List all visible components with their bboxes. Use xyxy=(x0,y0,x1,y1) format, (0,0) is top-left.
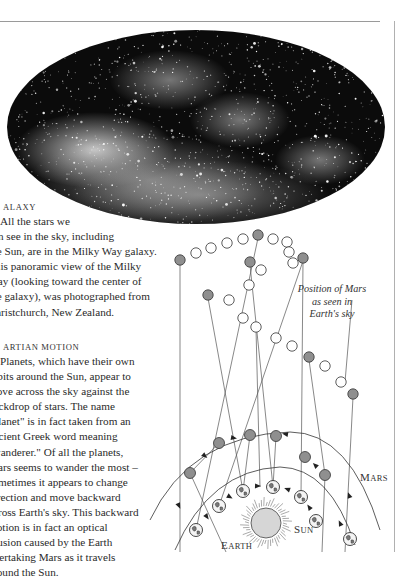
direction-arrow-icon xyxy=(226,493,234,500)
caption-line: Position of Mars xyxy=(287,283,377,296)
mars-position-marker xyxy=(282,237,292,247)
martian-text-line: overtaking Mars as it travels xyxy=(0,550,139,565)
caption-line: Earth's sky xyxy=(287,308,377,321)
earth-icon xyxy=(237,485,250,498)
direction-arrow-icon xyxy=(203,513,211,521)
earth-icon xyxy=(295,491,308,504)
mars-position-marker-filled xyxy=(175,255,185,265)
martian-text-line: around the Sun. xyxy=(0,565,139,580)
mars-label: MARS xyxy=(360,471,388,483)
sun-label: SUN xyxy=(294,523,314,535)
mars-position-marker-filled xyxy=(203,290,213,300)
mars-position-marker-filled xyxy=(348,389,358,399)
mars-position-marker xyxy=(191,248,201,258)
mars-icon xyxy=(245,430,256,441)
mars-icon xyxy=(271,431,282,442)
mars-position-marker-filled xyxy=(298,253,308,263)
mars-position-marker xyxy=(256,265,266,275)
mars-position-marker xyxy=(287,341,297,351)
direction-arrow-icon xyxy=(175,502,182,510)
direction-arrow-icon xyxy=(346,491,353,498)
mars-position-marker-filled xyxy=(245,257,255,267)
earth-label: EARTH xyxy=(221,539,252,551)
mars-icon xyxy=(185,468,196,479)
mars-position-marker xyxy=(268,234,278,244)
mars-position-marker xyxy=(251,322,261,332)
direction-arrow-icon xyxy=(311,461,319,469)
mars-icon xyxy=(320,470,331,481)
mars-position-caption: Position of Marsas seen inEarth's sky xyxy=(287,283,377,321)
mars-position-marker xyxy=(206,243,216,253)
mars-icon xyxy=(300,452,311,463)
mars-position-marker xyxy=(288,258,298,268)
caption-line: as seen in xyxy=(287,296,377,309)
earth-icon xyxy=(190,524,203,537)
direction-arrow-icon xyxy=(201,452,209,460)
direction-arrow-icon xyxy=(336,519,343,527)
mars-position-marker xyxy=(224,295,234,305)
direction-arrow-icon xyxy=(305,503,313,511)
mars-position-marker xyxy=(284,247,294,257)
mars-position-marker-filled xyxy=(253,230,263,240)
direction-arrow-icon xyxy=(283,486,290,493)
earth-icon xyxy=(213,500,226,513)
mars-position-marker xyxy=(222,238,232,248)
mars-position-marker xyxy=(336,377,346,387)
mars-position-marker xyxy=(271,333,281,343)
mars-position-marker-filled xyxy=(304,352,314,362)
mars-position-marker xyxy=(320,361,330,371)
earth-icon xyxy=(267,481,280,494)
mars-icon xyxy=(214,438,225,449)
mars-position-marker xyxy=(238,234,248,244)
mars-position-marker xyxy=(244,280,254,290)
earth-icon xyxy=(344,533,357,546)
mars-position-marker xyxy=(238,313,248,323)
